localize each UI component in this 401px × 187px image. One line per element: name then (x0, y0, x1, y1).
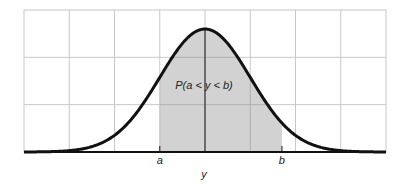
a-label: a (157, 154, 163, 166)
b-label: b (279, 154, 285, 166)
x-axis-label: y (200, 168, 208, 180)
probability-label: P(a < y < b) (175, 79, 233, 91)
normal-distribution-figure: P(a < y < b) a b y (0, 0, 401, 187)
